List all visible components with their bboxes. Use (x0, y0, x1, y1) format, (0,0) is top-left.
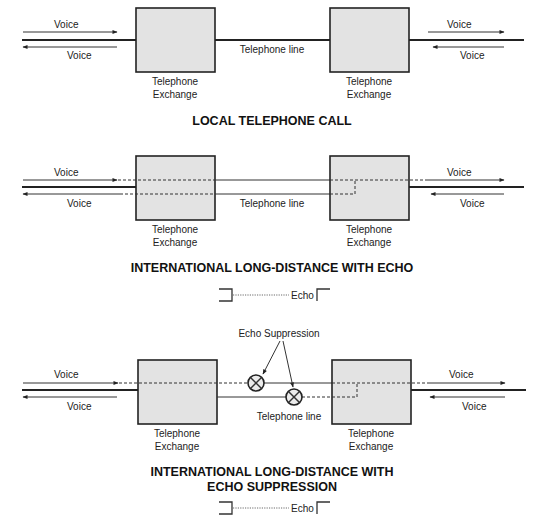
exchange-label: Telephone (152, 76, 199, 87)
voice-label: Voice (67, 401, 92, 412)
echo-diagram: Voice Voice Telephone Exchange Telephone… (0, 0, 534, 530)
voice-label: Voice (449, 369, 474, 380)
exchange-label: Exchange (155, 441, 200, 452)
legend-bracket-left (219, 502, 232, 514)
telephone-line-label: Telephone line (240, 198, 305, 209)
diagram-title: ECHO SUPPRESSION (207, 480, 337, 494)
telephone-exchange-right (330, 8, 409, 72)
voice-label: Voice (54, 369, 79, 380)
exchange-label: Exchange (153, 89, 198, 100)
exchange-label: Telephone (152, 224, 199, 235)
legend-bracket-right (317, 502, 330, 514)
echo-legend: Echo (219, 502, 330, 514)
voice-label: Voice (460, 198, 485, 209)
pointer-arrow (263, 341, 280, 374)
echo-suppression-label: Echo Suppression (238, 328, 319, 339)
exchange-label: Telephone (346, 76, 393, 87)
telephone-exchange-left (138, 360, 217, 424)
echo-suppressor-icon (248, 375, 264, 391)
exchange-label: Telephone (154, 428, 201, 439)
legend-bracket-left (219, 289, 232, 301)
voice-label: Voice (54, 167, 79, 178)
pointer-arrow (283, 341, 293, 387)
exchange-label: Exchange (349, 441, 394, 452)
telephone-exchange-left (136, 8, 215, 72)
telephone-exchange-left (136, 156, 215, 220)
legend-label: Echo (291, 290, 314, 301)
voice-label: Voice (447, 167, 472, 178)
voice-label: Voice (67, 50, 92, 61)
exchange-label: Exchange (347, 237, 392, 248)
echo-suppression-diagram: Echo Suppression Voice Voice Telephone E… (22, 328, 526, 514)
telephone-line-label: Telephone line (240, 44, 305, 55)
voice-label: Voice (54, 19, 79, 30)
diagram-title: INTERNATIONAL LONG-DISTANCE WITH ECHO (131, 261, 414, 275)
legend-label: Echo (291, 503, 314, 514)
legend-bracket-right (317, 289, 330, 301)
voice-label: Voice (447, 19, 472, 30)
telephone-exchange-right (330, 156, 409, 220)
exchange-label: Telephone (346, 224, 393, 235)
exchange-label: Exchange (347, 89, 392, 100)
telephone-line-label: Telephone line (257, 411, 322, 422)
echo-suppressor-icon (286, 389, 302, 405)
voice-label: Voice (462, 401, 487, 412)
voice-label: Voice (67, 198, 92, 209)
echo-legend: Echo (219, 289, 330, 301)
telephone-exchange-right (332, 360, 411, 424)
local-call-diagram: Voice Voice Telephone Exchange Telephone… (22, 8, 524, 128)
echo-diagram-section: Voice Voice Telephone Exchange Telephone… (22, 156, 524, 301)
exchange-label: Telephone (348, 428, 395, 439)
exchange-label: Exchange (153, 237, 198, 248)
diagram-title: INTERNATIONAL LONG-DISTANCE WITH (150, 465, 393, 479)
diagram-title: LOCAL TELEPHONE CALL (192, 114, 352, 128)
voice-label: Voice (460, 50, 485, 61)
